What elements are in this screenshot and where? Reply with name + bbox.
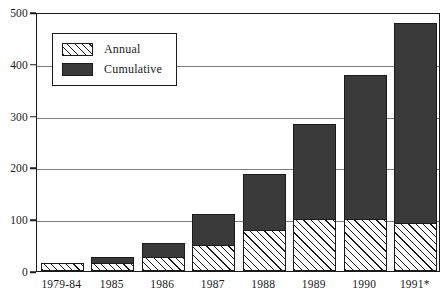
bar-segment-annual [91, 263, 134, 271]
x-tick-label: 1990 [352, 278, 376, 290]
bar-group [243, 174, 286, 271]
bar-segment-annual [293, 219, 336, 271]
y-tick-label: 0 [22, 266, 28, 278]
dark-solid-swatch-icon [62, 63, 93, 76]
bar-segment-annual [394, 223, 437, 271]
bar-chart: 0100200300400500 Annual Cumulative 1979-… [0, 0, 446, 304]
legend-label-annual: Annual [104, 42, 141, 57]
y-tick-label: 500 [10, 7, 28, 19]
bar-segment-annual [344, 219, 387, 271]
legend-label-cumulative: Cumulative [104, 62, 162, 77]
y-tick-label: 300 [10, 111, 28, 123]
x-axis: 1979-841985198619871988198919901991* [36, 276, 440, 298]
bar-group [344, 75, 387, 271]
y-axis: 0100200300400500 [0, 0, 36, 304]
y-tick-label: 400 [10, 59, 28, 71]
y-tick-label: 100 [10, 214, 28, 226]
bar-segment-annual [192, 245, 235, 271]
x-tick-label: 1988 [251, 278, 275, 290]
bar-segment-annual [41, 263, 84, 271]
x-tick-label: 1986 [150, 278, 174, 290]
bar-group [192, 214, 235, 271]
legend-item-cumulative: Cumulative [62, 61, 162, 78]
bar-group [41, 263, 84, 271]
x-tick-label: 1989 [302, 278, 326, 290]
x-tick-label: 1985 [100, 278, 124, 290]
bar-group [394, 23, 437, 271]
legend: Annual Cumulative [52, 33, 177, 86]
x-tick-label: 1987 [201, 278, 225, 290]
bar-segment-annual [243, 230, 286, 271]
x-tick-label: 1979-84 [41, 278, 81, 290]
bar-group [91, 257, 134, 271]
bar-group [293, 124, 336, 271]
bar-group [142, 243, 185, 271]
hatched-swatch-icon [62, 43, 93, 56]
legend-item-annual: Annual [62, 41, 162, 58]
bar-segment-annual [142, 257, 185, 272]
y-tick-label: 200 [10, 162, 28, 174]
x-tick-label: 1991* [400, 278, 430, 290]
